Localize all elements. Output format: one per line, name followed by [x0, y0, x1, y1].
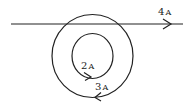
outer-loop-current-label: 3A [95, 82, 108, 92]
inner-loop-current-label: 2A [81, 61, 94, 71]
straight-wire-current-label: 4A [158, 7, 171, 17]
outer-loop [52, 15, 133, 98]
current-unit: A [88, 62, 94, 71]
current-value: 4 [158, 6, 164, 17]
current-unit: A [165, 8, 171, 17]
current-value: 2 [81, 60, 87, 71]
current-unit: A [102, 83, 108, 92]
current-value: 3 [95, 81, 101, 92]
inner-loop [72, 34, 113, 79]
